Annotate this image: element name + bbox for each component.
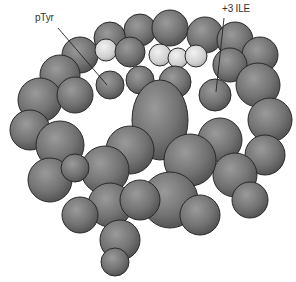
molecular-surface [10, 10, 292, 276]
ile-label: +3 ILE [222, 3, 250, 14]
protein-surface-figure [0, 0, 296, 282]
ptyr-label: pTyr [35, 12, 54, 23]
